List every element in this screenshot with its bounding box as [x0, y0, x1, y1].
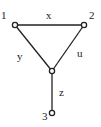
- node-2: [81, 22, 86, 27]
- edge-z-label: z: [59, 86, 64, 98]
- edge-u-label: u: [77, 47, 83, 59]
- node-1: [12, 22, 17, 27]
- node-center: [49, 68, 54, 73]
- edge-y-label: y: [17, 50, 23, 62]
- node-3-label: 3: [42, 110, 48, 122]
- node-3: [49, 110, 54, 115]
- edge-y: [15, 25, 52, 71]
- node-1-label: 1: [1, 9, 7, 21]
- edge-x-label: x: [46, 9, 52, 21]
- node-2-label: 2: [89, 9, 95, 21]
- graph-diagram: 1 2 x y u z 3: [0, 0, 101, 127]
- graph-svg: 1 2 x y u z 3: [0, 0, 101, 127]
